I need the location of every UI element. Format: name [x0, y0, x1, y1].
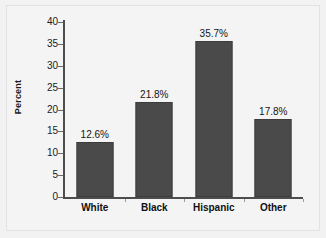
bar-value-label: 12.6% [81, 129, 109, 140]
y-axis-tick-mark [58, 131, 63, 132]
plot-area: 12.6%21.8%35.7%17.8% [65, 22, 303, 197]
bar-hispanic[interactable] [195, 41, 232, 197]
y-axis-tick-label: 40 [36, 17, 58, 27]
y-axis-tick-mark [58, 88, 63, 89]
y-axis-tick-label: 30 [36, 61, 58, 71]
y-axis-tick-label: 10 [36, 148, 58, 158]
bar-value-label: 35.7% [200, 28, 228, 39]
bar-slot: 35.7% [184, 22, 244, 197]
y-axis-tick-label: 5 [36, 170, 58, 180]
y-axis-tick-label: 25 [36, 83, 58, 93]
bar-slot: 12.6% [65, 22, 125, 197]
x-axis-tick-label: Hispanic [184, 202, 244, 213]
y-axis-tick-mark [58, 66, 63, 67]
y-axis-title: Percent [13, 67, 23, 127]
x-axis-line [63, 197, 303, 199]
y-axis-tick-mark [58, 110, 63, 111]
bar-slot: 17.8% [244, 22, 304, 197]
y-axis-tick-label: 20 [36, 105, 58, 115]
y-axis-tick-mark [58, 197, 63, 198]
x-axis-tick-label: Black [125, 202, 185, 213]
y-axis-tick-label: 15 [36, 126, 58, 136]
bar-black[interactable] [136, 102, 173, 197]
bar-chart-figure: Percent 4035302520151050 12.6%21.8%35.7%… [0, 0, 326, 238]
bar-value-label: 21.8% [140, 89, 168, 100]
y-axis-tick-label: 35 [36, 39, 58, 49]
bar-white[interactable] [76, 142, 113, 197]
x-axis-tick-mark [303, 199, 304, 202]
bar-other[interactable] [255, 119, 292, 197]
chart-plot-wrapper: Percent 4035302520151050 12.6%21.8%35.7%… [0, 0, 326, 238]
y-axis-tick-mark [58, 44, 63, 45]
y-axis-tick-mark [58, 153, 63, 154]
x-axis-tick-label: White [65, 202, 125, 213]
bar-value-label: 17.8% [259, 106, 287, 117]
y-axis-tick-labels: 4035302520151050 [36, 0, 58, 238]
y-axis-tick-mark [58, 22, 63, 23]
x-axis-tick-label: Other [244, 202, 304, 213]
y-axis-tick-mark [58, 175, 63, 176]
bar-slot: 21.8% [125, 22, 185, 197]
y-axis-tick-label: 0 [36, 192, 58, 202]
